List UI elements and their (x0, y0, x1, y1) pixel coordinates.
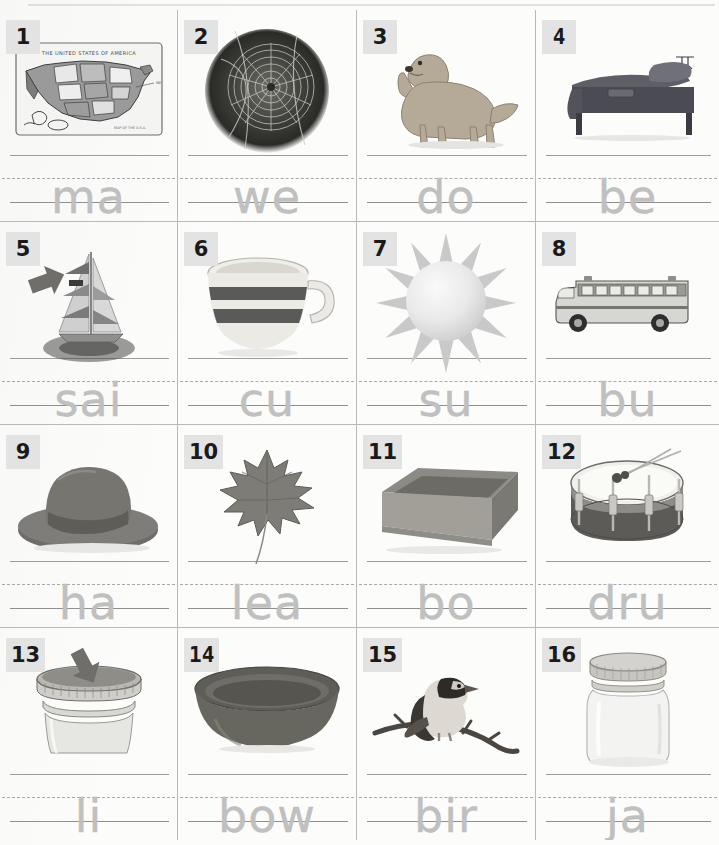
worksheet-cell[interactable]: 14 bow (178, 628, 357, 840)
word-tracing-area[interactable]: bir (357, 779, 535, 831)
cell-number: 3 (373, 27, 388, 48)
word-tracing-area[interactable]: do (357, 160, 535, 212)
cell-number: 16 (547, 645, 576, 666)
cell-number: 1 (16, 27, 31, 48)
worksheet-cell[interactable]: 10 lea (178, 425, 357, 628)
traced-word: bu (597, 378, 657, 422)
word-tracing-area[interactable]: we (178, 160, 356, 212)
traced-word: sai (55, 378, 123, 422)
handwriting-lines: we (178, 155, 356, 213)
handwriting-lines: ja (536, 774, 719, 832)
cell-number: 6 (194, 239, 209, 260)
handwriting-lines: bu (536, 358, 719, 416)
traced-word: dru (587, 581, 667, 625)
cell-number-badge: 1 (6, 20, 40, 54)
word-tracing-area[interactable]: lea (178, 566, 356, 618)
worksheet-cell[interactable]: 3 do (357, 10, 536, 222)
worksheet-cell[interactable]: 4 be (536, 10, 719, 222)
cell-number-badge: 3 (363, 20, 397, 54)
worksheet-cell[interactable]: 2 (178, 10, 357, 222)
worksheet-cell[interactable]: 1 THE UNITED STATES OF AMERICA ME MAP OF… (0, 10, 178, 222)
word-tracing-area[interactable]: bu (536, 363, 719, 415)
traced-word: lea (231, 581, 303, 625)
handwriting-lines: do (357, 155, 535, 213)
cell-number-badge: 11 (363, 435, 402, 469)
cell-number-badge: 2 (184, 20, 218, 54)
word-tracing-area[interactable]: bow (178, 779, 356, 831)
cell-number: 4 (553, 27, 566, 48)
worksheet-grid: 1 THE UNITED STATES OF AMERICA ME MAP OF… (0, 10, 719, 845)
worksheet-cell[interactable]: 15 bir (357, 628, 536, 840)
handwriting-lines: dru (536, 561, 719, 619)
handwriting-lines: be (536, 155, 719, 213)
pointer-arrow-icon (60, 644, 106, 694)
word-tracing-area[interactable]: be (536, 160, 719, 212)
traced-word: ha (59, 581, 118, 625)
word-tracing-area[interactable]: sai (0, 363, 177, 415)
word-tracing-area[interactable]: bo (357, 566, 535, 618)
traced-word: bo (416, 581, 475, 625)
traced-word: bir (414, 794, 478, 838)
handwriting-lines: bir (357, 774, 535, 832)
cell-number-badge: 8 (542, 232, 576, 266)
worksheet-cell[interactable]: 6 cu (178, 222, 357, 425)
worksheet-cell[interactable]: 5 sai (0, 222, 178, 425)
handwriting-lines: bo (357, 561, 535, 619)
handwriting-lines: su (357, 358, 535, 416)
word-tracing-area[interactable]: li (0, 779, 177, 831)
worksheet-cell[interactable]: 9 ha (0, 425, 178, 628)
traced-word: be (598, 175, 658, 219)
cell-number-badge: 16 (542, 638, 581, 672)
handwriting-lines: lea (178, 561, 356, 619)
cell-number: 7 (373, 239, 388, 260)
traced-word: ja (606, 794, 649, 838)
cell-number: 13 (11, 645, 40, 666)
traced-word: do (416, 175, 475, 219)
svg-text:MAP OF THE U.S.A.: MAP OF THE U.S.A. (114, 126, 146, 130)
worksheet-page: 1 THE UNITED STATES OF AMERICA ME MAP OF… (0, 0, 719, 845)
worksheet-cell[interactable]: 8 bu (536, 222, 719, 425)
cell-number-badge: 9 (6, 435, 40, 469)
word-tracing-area[interactable]: dru (536, 566, 719, 618)
svg-text:THE UNITED STATES OF AMERICA: THE UNITED STATES OF AMERICA (40, 50, 135, 56)
cell-number: 14 (189, 645, 214, 666)
handwriting-lines: ma (0, 155, 177, 213)
traced-word: ma (51, 175, 126, 219)
cell-number-badge: 7 (363, 232, 397, 266)
traced-word: bow (218, 794, 316, 838)
worksheet-cell[interactable]: 11 bo (357, 425, 536, 628)
worksheet-cell[interactable]: 12 (536, 425, 719, 628)
handwriting-lines: li (0, 774, 177, 832)
worksheet-cell[interactable]: 13 (0, 628, 178, 840)
pointer-arrow-icon (24, 260, 70, 310)
traced-word: li (75, 794, 103, 838)
cell-number-badge: 14 (184, 638, 219, 672)
cell-number-badge: 10 (184, 435, 223, 469)
worksheet-cell[interactable]: 7 (357, 222, 536, 425)
handwriting-lines: ha (0, 561, 177, 619)
svg-text:ME: ME (156, 81, 162, 85)
cell-number-badge: 15 (363, 638, 402, 672)
handwriting-lines: bow (178, 774, 356, 832)
cell-number: 15 (368, 645, 397, 666)
cell-number: 5 (16, 239, 31, 260)
cell-number: 2 (194, 27, 209, 48)
cell-number: 11 (368, 442, 397, 463)
worksheet-cell[interactable]: 16 ja (536, 628, 719, 840)
traced-word: cu (239, 378, 295, 422)
word-tracing-area[interactable]: su (357, 363, 535, 415)
word-tracing-area[interactable]: ma (0, 160, 177, 212)
word-tracing-area[interactable]: ja (536, 779, 719, 831)
page-top-rule (28, 4, 715, 6)
traced-word: we (233, 175, 301, 219)
cell-number-badge: 6 (184, 232, 218, 266)
traced-word: su (418, 378, 473, 422)
cell-number: 10 (189, 442, 218, 463)
cell-number-badge: 4 (542, 20, 576, 54)
word-tracing-area[interactable]: ha (0, 566, 177, 618)
handwriting-lines: sai (0, 358, 177, 416)
cell-number-badge: 12 (542, 435, 581, 469)
cell-number: 12 (547, 442, 576, 463)
word-tracing-area[interactable]: cu (178, 363, 356, 415)
cell-number-badge: 13 (6, 638, 45, 672)
